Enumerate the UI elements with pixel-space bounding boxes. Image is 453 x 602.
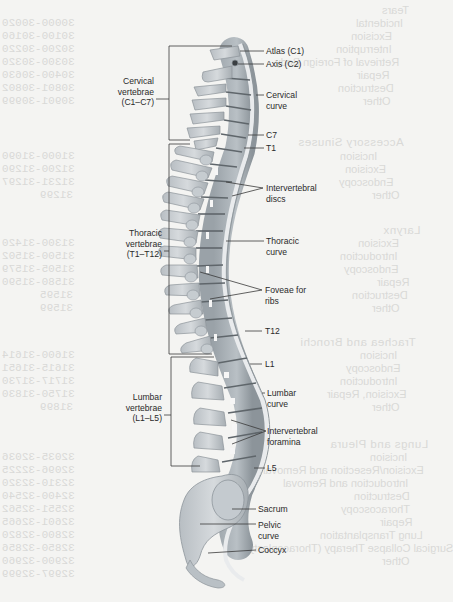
lumbar-processes xyxy=(190,358,226,472)
label-pelvic-curve: Pelvic curve xyxy=(258,520,281,541)
label-sacrum: Sacrum xyxy=(258,504,288,515)
label-l1: L1 xyxy=(265,359,275,370)
label-intervertebral-foramina: Intervertebral foramina xyxy=(267,426,318,447)
label-t1: T1 xyxy=(266,143,276,154)
label-foveae-for-ribs: Foveae for ribs xyxy=(265,285,306,306)
label-cervical-curve: Cervical curve xyxy=(266,90,297,111)
label-c7: C7 xyxy=(266,130,277,141)
label-lumbar-vertebrae: Lumbar vertebrae (L1–L5) xyxy=(100,392,162,424)
label-atlas: Atlas (C1) xyxy=(266,46,304,57)
label-coccyx: Coccyx xyxy=(258,545,286,556)
label-axis: Axis (C2) xyxy=(266,59,301,70)
label-intervertebral-discs: Intervertebral discs xyxy=(266,183,317,204)
label-cervical-vertebrae: Cervical vertebrae (C1–C7) xyxy=(100,76,154,108)
label-t12: T12 xyxy=(265,326,280,337)
label-thoracic-curve: Thoracic curve xyxy=(266,236,299,257)
label-l5: L5 xyxy=(267,463,277,474)
coccyx xyxy=(186,560,225,588)
label-thoracic-vertebrae: Thoracic vertebrae (T1–T12) xyxy=(100,228,162,260)
label-lumbar-curve: Lumbar curve xyxy=(267,388,296,409)
